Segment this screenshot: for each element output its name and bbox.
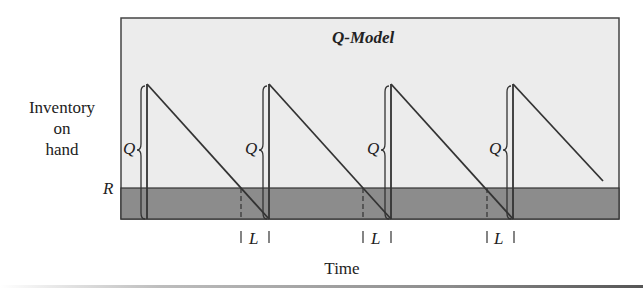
y-axis-label-line: on (14, 118, 110, 139)
q-label: Q (489, 139, 501, 159)
x-axis-label: Time (302, 259, 382, 279)
lead-time-label: L (371, 229, 380, 249)
q-label: Q (245, 139, 257, 159)
diagram-title: Q-Model (332, 28, 394, 48)
y-axis-label-line: hand (14, 139, 110, 160)
lead-time-label: L (249, 229, 258, 249)
y-axis-label-line: Inventory (14, 97, 110, 118)
reorder-point-label: R (103, 179, 113, 199)
reorder-band (121, 188, 619, 219)
footer-divider (0, 285, 643, 288)
y-axis-label: Inventory on hand (14, 97, 110, 160)
q-label: Q (123, 139, 135, 159)
q-label: Q (367, 139, 379, 159)
lead-time-label: L (494, 229, 503, 249)
